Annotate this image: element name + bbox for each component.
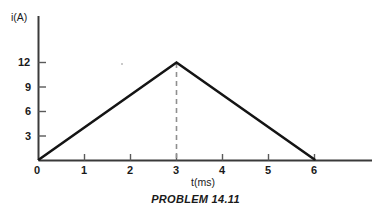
scan-artifact-speck xyxy=(121,63,123,65)
y-tick-label-9: 9 xyxy=(25,82,31,93)
x-tick-label-2: 2 xyxy=(127,165,133,176)
y-axis-ticks xyxy=(39,63,47,137)
x-tick-label-0: 0 xyxy=(34,165,40,176)
x-axis-title: t(ms) xyxy=(191,177,215,188)
y-tick-label-6: 6 xyxy=(25,106,31,117)
x-tick-label-1: 1 xyxy=(81,165,87,176)
y-tick-label-3: 3 xyxy=(25,131,31,142)
figure-caption: PROBLEM 14.11 xyxy=(0,193,391,205)
x-tick-label-5: 5 xyxy=(265,165,271,176)
y-axis-title: i(A) xyxy=(11,12,27,23)
x-tick-label-3: 3 xyxy=(173,165,179,176)
x-tick-label-4: 4 xyxy=(219,165,225,176)
x-tick-label-6: 6 xyxy=(311,165,317,176)
y-tick-label-12: 12 xyxy=(18,57,30,68)
figure-problem-14-11: 12 9 6 3 0 1 2 3 4 5 6 i(A) t(ms) PROBLE… xyxy=(0,0,391,210)
